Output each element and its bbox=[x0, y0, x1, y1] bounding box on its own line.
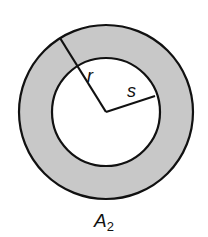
label-area-main: A bbox=[93, 210, 107, 231]
label-r: r bbox=[87, 66, 94, 86]
label-s: s bbox=[127, 81, 136, 101]
annulus-diagram: r s A2 bbox=[0, 0, 208, 237]
label-area-sub: 2 bbox=[107, 219, 114, 234]
label-area: A2 bbox=[93, 210, 114, 234]
